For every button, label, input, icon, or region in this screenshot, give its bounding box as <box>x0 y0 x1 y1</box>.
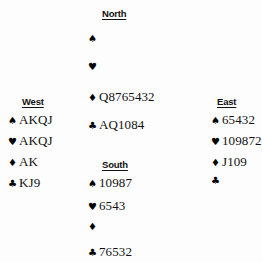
suit-list-east: ♠ 65432 ♥ 109872 ♦ J109 ♣ <box>211 113 262 197</box>
hand-label-east: East <box>217 96 262 107</box>
suit-row-east-clubs: ♣ <box>211 176 262 197</box>
suit-row-south-hearts: ♥ 6543 <box>88 199 132 222</box>
suit-list-west: ♠ AKQJ ♥ AKQJ ♦ AK ♣ KJ9 <box>8 113 53 197</box>
club-icon: ♣ <box>211 176 222 186</box>
hand-label-north: North <box>102 8 155 19</box>
suit-row-west-clubs: ♣ KJ9 <box>8 176 53 197</box>
cards-west-clubs: KJ9 <box>19 176 40 189</box>
cards-east-diamonds: J109 <box>222 155 247 168</box>
suit-row-east-hearts: ♥ 109872 <box>211 134 262 155</box>
heart-icon: ♥ <box>88 62 99 72</box>
suit-row-east-diamonds: ♦ J109 <box>211 155 262 176</box>
heart-icon: ♥ <box>211 137 222 147</box>
spade-icon: ♠ <box>88 179 99 189</box>
suit-row-west-spades: ♠ AKQJ <box>8 113 53 134</box>
suit-row-north-hearts: ♥ <box>88 62 155 90</box>
cards-west-spades: AKQJ <box>19 113 53 126</box>
suit-row-south-clubs: ♣ 76532 <box>88 245 132 262</box>
bridge-hand-diagram: North ♠ ♥ ♦ Q8765432 ♣ AQ1084 West <box>0 0 262 262</box>
spade-icon: ♠ <box>8 116 19 126</box>
suit-row-west-hearts: ♥ AKQJ <box>8 134 53 155</box>
suit-row-south-spades: ♠ 10987 <box>88 176 132 199</box>
club-icon: ♣ <box>88 248 99 258</box>
suit-row-north-spades: ♠ <box>88 34 155 62</box>
suit-row-north-diamonds: ♦ Q8765432 <box>88 90 155 118</box>
diamond-icon: ♦ <box>211 158 222 168</box>
cards-east-hearts: 109872 <box>222 134 262 147</box>
heart-icon: ♥ <box>8 137 19 147</box>
cards-west-hearts: AKQJ <box>19 134 53 147</box>
cards-north-clubs: AQ1084 <box>99 118 144 131</box>
suit-list-south: ♠ 10987 ♥ 6543 ♦ ♣ 76532 <box>88 176 132 262</box>
suit-row-south-diamonds: ♦ <box>88 222 132 245</box>
cards-south-spades: 10987 <box>99 176 132 189</box>
suit-row-west-diamonds: ♦ AK <box>8 155 53 176</box>
suit-row-east-spades: ♠ 65432 <box>211 113 262 134</box>
hand-label-west: West <box>22 96 53 107</box>
spade-icon: ♠ <box>211 116 222 126</box>
club-icon: ♣ <box>8 179 19 189</box>
club-icon: ♣ <box>88 121 99 131</box>
cards-east-spades: 65432 <box>222 113 255 126</box>
suit-list-north: ♠ ♥ ♦ Q8765432 ♣ AQ1084 <box>88 34 155 146</box>
hand-east: East ♠ 65432 ♥ 109872 ♦ J109 ♣ <box>211 96 262 197</box>
cards-north-diamonds: Q8765432 <box>99 90 155 103</box>
hand-south: South ♠ 10987 ♥ 6543 ♦ ♣ 76532 <box>88 159 132 262</box>
diamond-icon: ♦ <box>88 93 99 103</box>
hand-label-south: South <box>102 159 132 170</box>
hand-west: West ♠ AKQJ ♥ AKQJ ♦ AK ♣ KJ9 <box>8 96 53 197</box>
diamond-icon: ♦ <box>8 158 19 168</box>
heart-icon: ♥ <box>88 202 99 212</box>
hand-north: North ♠ ♥ ♦ Q8765432 ♣ AQ1084 <box>88 8 155 146</box>
cards-south-hearts: 6543 <box>99 199 125 212</box>
cards-south-clubs: 76532 <box>99 245 132 258</box>
suit-row-north-clubs: ♣ AQ1084 <box>88 118 155 146</box>
cards-west-diamonds: AK <box>19 155 38 168</box>
spade-icon: ♠ <box>88 34 99 44</box>
diamond-icon: ♦ <box>88 222 99 232</box>
